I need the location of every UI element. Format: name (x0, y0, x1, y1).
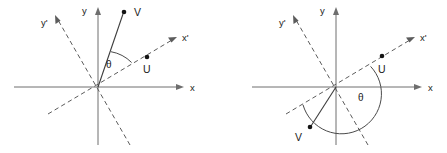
x-prime-axis-label: x' (420, 32, 427, 43)
x-axis (252, 84, 422, 90)
point-v-dot (122, 10, 127, 15)
x-prime-axis (48, 37, 177, 114)
point-u-label: U (143, 63, 151, 75)
point-v-label: V (134, 6, 141, 18)
y-prime-axis-label: y' (279, 17, 286, 28)
x-prime-axis (286, 37, 415, 114)
angle-theta-arc (111, 52, 132, 63)
angle-theta-label: θ (106, 59, 112, 70)
x-axis-label: x (190, 82, 195, 93)
point-v-label: V (295, 131, 302, 143)
vector-v (308, 87, 336, 129)
y-prime-axis (55, 15, 130, 145)
vector-v (98, 10, 126, 87)
angle-theta-label: θ (358, 92, 364, 103)
point-v-dot (308, 125, 313, 130)
y-axis (95, 7, 101, 145)
figure-container: x y x' y' V U θ (0, 0, 447, 153)
x-axis-label: x (428, 82, 433, 93)
panel-negative-angle: x y x' y' U V θ (252, 5, 433, 145)
angle-theta-arc (303, 66, 381, 133)
panel-positive-angle: x y x' y' V U θ (14, 5, 195, 145)
y-prime-axis (293, 15, 368, 145)
vector-rotation-diagram: x y x' y' V U θ (0, 0, 447, 153)
point-u-label: U (378, 63, 386, 75)
point-u-dot (145, 55, 150, 60)
y-axis-label: y (320, 5, 325, 16)
y-axis (333, 7, 339, 145)
y-axis-label: y (82, 5, 87, 16)
x-prime-axis-label: x' (182, 32, 189, 43)
point-u-dot (380, 54, 385, 59)
y-prime-axis-label: y' (41, 17, 48, 28)
